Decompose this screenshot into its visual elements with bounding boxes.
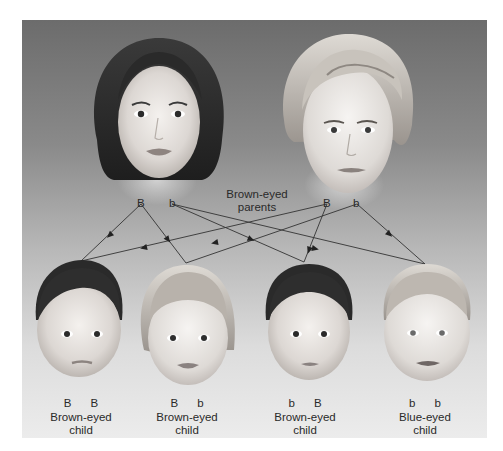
- child-1-label-line1: Brown-eyed: [36, 411, 126, 425]
- parents-label-line2: parents: [222, 201, 292, 214]
- parents-label-line1: Brown-eyed: [222, 188, 292, 201]
- parents-label: Brown-eyed parents: [222, 188, 292, 214]
- child-1-caption: B B Brown-eyed child: [36, 397, 126, 438]
- arrow-fatherB-child3: [304, 204, 327, 262]
- child-2-label-line1: Brown-eyed: [142, 411, 232, 425]
- child-4-caption: b b Blue-eyed child: [380, 397, 470, 438]
- child-2-label-line2: child: [142, 424, 232, 438]
- child-4-alleles: b b: [380, 397, 470, 411]
- child-1-label-line2: child: [36, 424, 126, 438]
- diagram-panel: B b B b Brown-eyed parents B B Brown-eye…: [22, 20, 487, 438]
- child-1-portrait: [36, 260, 123, 377]
- father-allele-2: b: [353, 197, 359, 210]
- child-2-caption: B b Brown-eyed child: [142, 397, 232, 438]
- inheritance-diagram: [22, 20, 487, 438]
- child-3-label-line2: child: [260, 424, 350, 438]
- mother-allele-1: B: [137, 197, 145, 210]
- mother-allele-2: b: [169, 197, 175, 210]
- mother-portrait: [94, 38, 224, 205]
- child-3-caption: b B Brown-eyed child: [260, 397, 350, 438]
- child-3-portrait: [266, 264, 353, 380]
- arrowheads: [105, 230, 394, 255]
- child-4-label-line2: child: [380, 424, 470, 438]
- arrow-motherB-child2: [141, 204, 186, 263]
- child-4-label-line1: Blue-eyed: [380, 411, 470, 425]
- child-2-alleles: B b: [142, 397, 232, 411]
- father-portrait: [283, 34, 413, 210]
- child-2-portrait: [141, 265, 235, 385]
- child-1-alleles: B B: [36, 397, 126, 411]
- child-3-label-line1: Brown-eyed: [260, 411, 350, 425]
- child-3-alleles: b B: [260, 397, 350, 411]
- father-allele-1: B: [323, 197, 331, 210]
- child-4-portrait: [384, 264, 471, 381]
